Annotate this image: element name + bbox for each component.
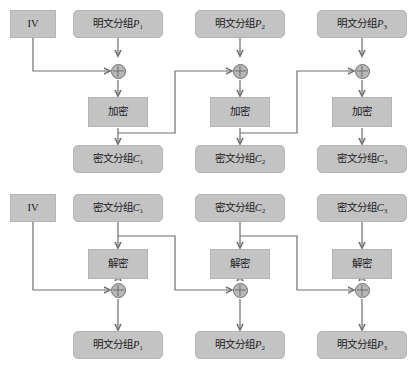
encrypt-operation-2: 加密	[210, 97, 270, 127]
decryption-iv-box: IV	[10, 194, 56, 222]
decryption-ciphertext-label-3: 密文分组C3	[337, 203, 388, 214]
cbc-mode-diagram: IV 明文分组P1 明文分组P2 明文分组P3 加密 加密 加密 密文分组C1 …	[0, 0, 412, 372]
decryption-ciphertext-block-3: 密文分组C3	[317, 194, 407, 222]
decryption-plaintext-label-1: 明文分组P1	[93, 340, 143, 351]
encryption-plaintext-label-2: 明文分组P2	[215, 19, 265, 30]
encrypt-operation-label-1: 加密	[108, 107, 128, 118]
encryption-ciphertext-label-3: 密文分组C3	[337, 154, 388, 165]
encryption-ciphertext-label-2: 密文分组C2	[215, 154, 266, 165]
decryption-xor-node-3	[355, 283, 370, 298]
encryption-plaintext-label-1: 明文分组P1	[93, 19, 143, 30]
encryption-plaintext-block-1: 明文分组P1	[73, 10, 163, 38]
decryption-plaintext-label-2: 明文分组P2	[215, 340, 265, 351]
decryption-xor-node-1	[111, 283, 126, 298]
connector-wires	[0, 0, 412, 372]
encrypt-operation-label-3: 加密	[352, 107, 372, 118]
decryption-ciphertext-label-1: 密文分组C1	[93, 203, 144, 214]
decryption-xor-node-2	[233, 283, 248, 298]
decryption-plaintext-block-1: 明文分组P1	[73, 331, 163, 359]
encryption-xor-node-2	[233, 64, 248, 79]
decrypt-operation-1: 解密	[88, 249, 148, 279]
encrypt-operation-3: 加密	[332, 97, 392, 127]
decrypt-operation-label-1: 解密	[108, 259, 128, 270]
encryption-plaintext-block-3: 明文分组P3	[317, 10, 407, 38]
wire-enc-iv-to-xor1	[33, 38, 110, 71]
encryption-iv-box: IV	[10, 10, 56, 38]
encryption-xor-node-3	[355, 64, 370, 79]
encrypt-operation-1: 加密	[88, 97, 148, 127]
decryption-plaintext-block-2: 明文分组P2	[195, 331, 285, 359]
encryption-ciphertext-block-1: 密文分组C1	[73, 145, 163, 173]
decryption-ciphertext-block-2: 密文分组C2	[195, 194, 285, 222]
decrypt-operation-label-2: 解密	[230, 259, 250, 270]
encryption-xor-node-1	[111, 64, 126, 79]
decrypt-operation-3: 解密	[332, 249, 392, 279]
encryption-ciphertext-block-2: 密文分组C2	[195, 145, 285, 173]
encryption-ciphertext-label-1: 密文分组C1	[93, 154, 144, 165]
encryption-iv-label: IV	[27, 19, 38, 30]
decryption-plaintext-label-3: 明文分组P3	[337, 340, 387, 351]
decrypt-operation-2: 解密	[210, 249, 270, 279]
decrypt-operation-label-3: 解密	[352, 259, 372, 270]
encryption-ciphertext-block-3: 密文分组C3	[317, 145, 407, 173]
encrypt-operation-label-2: 加密	[230, 107, 250, 118]
encryption-plaintext-label-3: 明文分组P3	[337, 19, 387, 30]
decryption-iv-label: IV	[27, 203, 38, 214]
decryption-plaintext-block-3: 明文分组P3	[317, 331, 407, 359]
encryption-plaintext-block-2: 明文分组P2	[195, 10, 285, 38]
decryption-ciphertext-label-2: 密文分组C2	[215, 203, 266, 214]
decryption-ciphertext-block-1: 密文分组C1	[73, 194, 163, 222]
